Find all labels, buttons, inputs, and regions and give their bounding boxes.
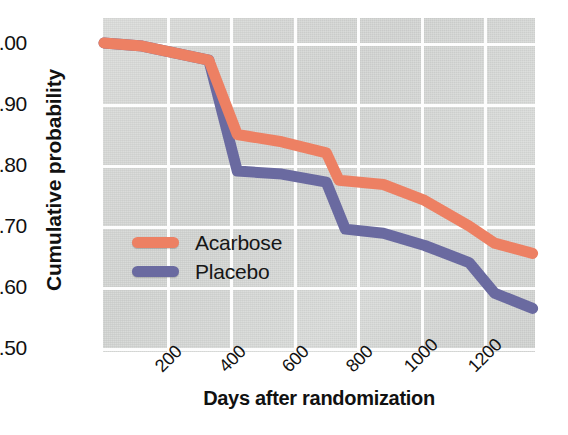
legend-label-placebo: Placebo [195, 260, 270, 284]
curves-group [103, 18, 535, 352]
legend-item-acarbose: Acarbose [132, 228, 282, 257]
legend-item-placebo: Placebo [132, 257, 282, 286]
legend-label-acarbose: Acarbose [195, 231, 282, 255]
y-tick-label-0-50: 0.50 [0, 336, 27, 360]
figure: Acarbose Placebo 1.00 0.90 0.80 0.70 0.6… [0, 0, 568, 435]
y-tick-label-0-70: 0.70 [0, 214, 27, 238]
legend-swatch-acarbose [132, 237, 179, 248]
x-axis-title: Days after randomization [103, 387, 535, 410]
y-tick-label-0-60: 0.60 [0, 275, 27, 299]
y-axis-title: Cumulative probability [42, 30, 66, 330]
y-tick-label-0-80: 0.80 [0, 153, 27, 177]
legend: Acarbose Placebo [132, 228, 282, 286]
plot-panel: Acarbose Placebo [103, 18, 535, 352]
y-tick-label-1-00: 1.00 [0, 31, 27, 55]
legend-swatch-placebo [132, 266, 179, 277]
y-tick-label-0-90: 0.90 [0, 92, 27, 116]
series-line-acarbose [104, 43, 533, 253]
